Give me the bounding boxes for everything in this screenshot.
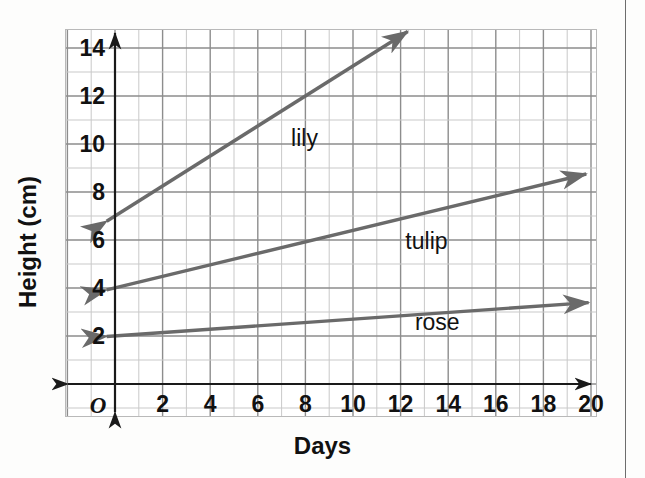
series-label-tulip: tulip (405, 228, 447, 255)
x-tick-label-4: 4 (204, 393, 217, 416)
y-tick-label-12: 12 (69, 85, 105, 108)
y-axis-title: Height (cm) (14, 152, 42, 332)
y-tick-label-2: 2 (69, 325, 105, 348)
plant-growth-line-graph: 24681012142468101214161820Olilytuliprose… (0, 0, 645, 478)
x-tick-label-2: 2 (156, 393, 169, 416)
x-tick-label-6: 6 (251, 393, 264, 416)
y-tick-label-14: 14 (69, 37, 105, 60)
x-tick-label-10: 10 (340, 393, 366, 416)
series-label-rose: rose (415, 309, 460, 336)
x-tick-label-8: 8 (299, 393, 312, 416)
x-tick-label-16: 16 (483, 393, 509, 416)
x-tick-label-20: 20 (578, 393, 604, 416)
x-tick-label-18: 18 (531, 393, 557, 416)
x-tick-label-12: 12 (388, 393, 414, 416)
y-tick-label-4: 4 (69, 277, 105, 300)
y-tick-label-10: 10 (69, 133, 105, 156)
x-axis-title: Days (0, 432, 645, 460)
worksheet-page: 24681012142468101214161820Olilytuliprose… (0, 0, 645, 478)
x-tick-label-14: 14 (435, 393, 461, 416)
series-label-lily: lily (291, 125, 318, 152)
y-tick-label-8: 8 (69, 181, 105, 204)
y-tick-label-6: 6 (69, 229, 105, 252)
origin-label: O (90, 393, 107, 419)
